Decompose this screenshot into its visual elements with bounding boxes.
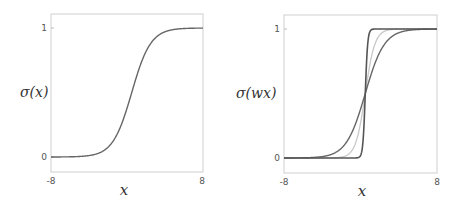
left-xtick-label-max: 8 (199, 176, 205, 186)
left-ylabel: σ(x) (20, 84, 48, 100)
right-ytick-label-0: 0 (274, 153, 280, 163)
right-xtick-label-min: -8 (280, 177, 289, 187)
right-plot-frame (284, 15, 437, 173)
left-ytick-label-0: 0 (41, 152, 47, 162)
left-sigmoid-curve (51, 28, 203, 157)
right-plot: 1 0 -8 8 σ(wx) x (236, 15, 440, 200)
left-xlabel: x (120, 181, 129, 199)
right-sigmoid-curve-w1 (284, 29, 437, 158)
left-ytick-label-1: 1 (41, 23, 47, 33)
left-plot-frame (51, 14, 203, 172)
right-sigmoid-curve-w2 (284, 29, 437, 158)
right-ylabel: σ(wx) (236, 85, 276, 101)
left-xtick-label-min: -8 (47, 176, 56, 186)
left-plot: 1 0 -8 8 σ(x) x (20, 14, 205, 199)
right-sigmoid-curve-w8 (284, 29, 437, 158)
right-xtick-label-max: 8 (434, 177, 440, 187)
right-ytick-label-1: 1 (274, 24, 280, 34)
right-xlabel: x (358, 182, 367, 200)
figure: 1 0 -8 8 σ(x) x 1 0 -8 8 σ(wx) x (0, 0, 460, 203)
